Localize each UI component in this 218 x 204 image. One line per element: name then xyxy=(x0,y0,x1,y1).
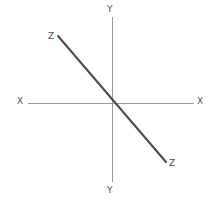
diagram-background xyxy=(0,0,218,204)
x-axis-label-left: X xyxy=(17,97,23,106)
y-axis-label-top: Y xyxy=(107,5,113,14)
x-axis-label-right: X xyxy=(197,97,203,106)
axes-diagram: Y Y X X Z Z xyxy=(0,0,218,204)
z-line-label-start: Z xyxy=(48,32,54,41)
z-line-label-end: Z xyxy=(169,159,175,168)
y-axis-label-bottom: Y xyxy=(107,186,113,195)
diagram-canvas xyxy=(0,0,218,204)
